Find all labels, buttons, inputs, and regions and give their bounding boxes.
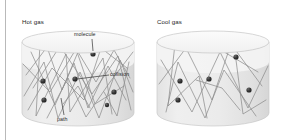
molecule-dot [111,89,116,94]
molecule-dot [72,76,77,81]
molecule-dot [246,87,251,92]
figure-canvas: Hot gas Cool gas molecule collision path [0,0,283,140]
cool-cylinder-rim [157,31,269,53]
cool-gas-cylinder [157,31,269,126]
molecule-dot [206,76,211,81]
molecule-dot [233,54,238,59]
molecule-dot [40,78,45,83]
cool-gas-title: Cool gas [157,19,182,25]
hot-gas-cylinder [22,31,134,126]
molecule-callout-label: molecule [74,32,96,37]
molecule-dot [105,103,109,107]
molecule-dot [175,97,180,102]
molecule-dot [177,78,182,83]
collision-callout-label: collision [110,72,129,77]
path-callout-label: path [57,117,68,122]
molecule-dot [41,97,46,102]
hot-gas-title: Hot gas [22,19,44,25]
